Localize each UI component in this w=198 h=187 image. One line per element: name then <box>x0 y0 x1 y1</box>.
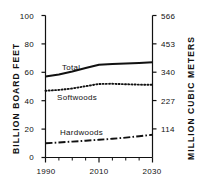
chart-figure: BILLION BOARD FEET MILLION CUBIC METERS … <box>0 0 198 187</box>
data-series <box>46 62 153 143</box>
plot-area <box>0 0 198 187</box>
series-line-softwoods <box>46 84 153 91</box>
series-line-total <box>46 62 153 76</box>
series-line-hardwoods <box>46 135 153 144</box>
